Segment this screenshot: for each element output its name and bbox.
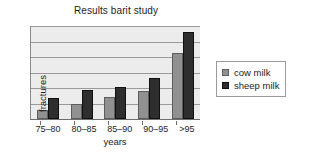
bar-groups	[31, 26, 200, 119]
x-tick-label-2: 85–90	[107, 124, 132, 136]
bar-group-1	[71, 26, 93, 119]
bar-sheep-milk-1	[82, 90, 93, 119]
legend-item-sheep-milk: sheep milk	[222, 79, 279, 92]
x-tick-label-4: >95	[179, 124, 194, 136]
y-axis-title: fractures	[37, 62, 48, 126]
legend-label-sheep-milk: sheep milk	[234, 80, 279, 91]
legend-item-cow-milk: cow milk	[222, 66, 279, 79]
plot-area: fractures	[30, 26, 200, 120]
bar-group-2	[104, 26, 126, 119]
x-tick-label-1: 80–85	[71, 124, 96, 136]
chart-title: Results barit study	[30, 5, 202, 16]
bar-sheep-milk-3	[149, 78, 160, 119]
legend-label-cow-milk: cow milk	[234, 67, 270, 78]
bar-chart-figure: Results barit study	[0, 0, 314, 158]
x-axis-labels: 75–80 80–85 85–90 90–95 >95	[30, 124, 200, 136]
bar-group-3	[138, 26, 160, 119]
bar-group-4	[172, 26, 194, 119]
x-axis-title: years	[30, 136, 200, 147]
bar-sheep-milk-0	[48, 98, 59, 119]
legend-swatch-sheep-milk-icon	[222, 82, 229, 89]
bar-sheep-milk-4	[183, 32, 194, 119]
bar-cow-milk-2	[104, 97, 115, 119]
chart-legend: cow milk sheep milk	[216, 61, 286, 97]
legend-swatch-cow-milk-icon	[222, 69, 229, 76]
bar-cow-milk-1	[71, 104, 82, 119]
x-tick-label-0: 75–80	[35, 124, 60, 136]
bar-cow-milk-3	[138, 91, 149, 119]
bar-sheep-milk-2	[115, 87, 126, 119]
bar-cow-milk-4	[172, 53, 183, 119]
x-tick-label-3: 90–95	[143, 124, 168, 136]
